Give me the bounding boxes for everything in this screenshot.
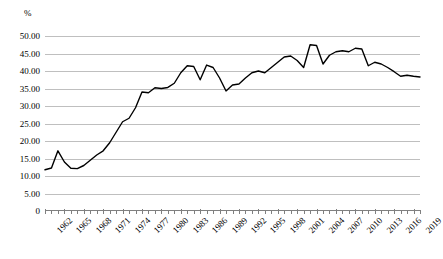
x-axis-tick-label: 1998 [288, 216, 307, 235]
x-axis-tick-label: 1965 [75, 216, 94, 235]
y-axis-tick-label: 0 [0, 207, 40, 216]
y-axis-unit-label: % [24, 8, 32, 18]
y-axis-tick-label: 40.00 [0, 67, 40, 76]
x-axis-tick-label: 2019 [424, 216, 443, 235]
x-axis-tick-label: 1986 [210, 216, 229, 235]
x-axis-tickmark [420, 210, 421, 214]
x-axis-tick-label: 2013 [385, 216, 404, 235]
x-axis-tick-label: 1962 [55, 216, 74, 235]
x-axis-tick-label: 1971 [113, 216, 132, 235]
y-axis-tick-label: 45.00 [0, 50, 40, 59]
data-series-line [45, 36, 420, 211]
x-axis-tick-label: 2007 [346, 216, 365, 235]
y-axis-tick-label: 30.00 [0, 102, 40, 111]
x-axis-tick-label: 1980 [172, 216, 191, 235]
y-axis-tick-label: 10.00 [0, 172, 40, 181]
x-axis-tick-label: 2010 [366, 216, 385, 235]
x-axis-tick-label: 1974 [133, 216, 152, 235]
x-axis-tick-label: 2016 [404, 216, 423, 235]
x-axis-tick-label: 2001 [307, 216, 326, 235]
y-axis-tick-label: 35.00 [0, 85, 40, 94]
x-axis-tick-label: 1989 [230, 216, 249, 235]
x-axis-tick-label: 1977 [152, 216, 171, 235]
x-axis-tick-label: 2004 [327, 216, 346, 235]
y-axis-tick-label: 5.00 [0, 190, 40, 199]
y-axis-tick-label: 15.00 [0, 155, 40, 164]
x-axis-tick-label: 1983 [191, 216, 210, 235]
y-axis-tick-label: 20.00 [0, 137, 40, 146]
plot-area [45, 36, 420, 211]
series-path [45, 45, 420, 170]
y-axis-tick-label: 25.00 [0, 120, 40, 129]
x-axis-tick-label: 1992 [249, 216, 268, 235]
x-axis-tick-label: 1995 [269, 216, 288, 235]
y-axis-tick-label: 50.00 [0, 32, 40, 41]
x-axis-tick-label: 1968 [94, 216, 113, 235]
